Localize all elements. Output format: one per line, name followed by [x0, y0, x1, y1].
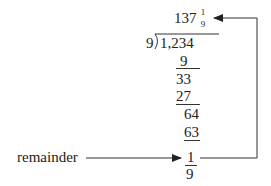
remainder-value: 1 — [187, 150, 195, 165]
divisor: 9 — [146, 36, 154, 51]
step-subtract-27: 27 — [176, 89, 191, 104]
remainder-label: remainder — [17, 150, 78, 165]
step-33: 33 — [176, 72, 191, 87]
step-subtract-9: 9 — [180, 54, 188, 69]
quotient-fraction-denominator: 9 — [199, 20, 207, 29]
step-subtract-63: 63 — [184, 125, 199, 140]
step-underline — [176, 104, 200, 105]
quotient-fraction-numerator: 1 — [199, 8, 207, 17]
step-64: 64 — [184, 107, 199, 122]
step-underline — [184, 140, 200, 141]
dividend: 1,234 — [160, 36, 194, 51]
remainder-to-fraction-connector — [200, 18, 257, 158]
quotient-whole: 137 — [174, 11, 197, 26]
step-underline — [176, 68, 200, 69]
remainder-denominator: 9 — [186, 167, 194, 182]
